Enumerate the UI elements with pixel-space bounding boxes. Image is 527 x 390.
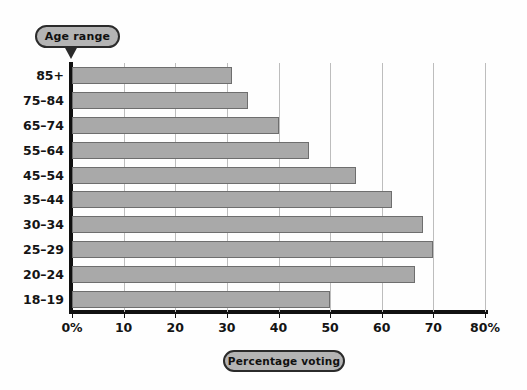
y-axis-tick-label: 30–34 xyxy=(23,217,64,232)
y-axis-tick-label: 55–64 xyxy=(23,143,64,158)
x-axis-tick-mark xyxy=(382,312,383,318)
bar xyxy=(72,167,356,184)
bar-row xyxy=(72,241,485,258)
y-axis-tick-label: 45–54 xyxy=(23,168,64,183)
x-axis-title-pill: Percentage voting xyxy=(223,350,345,372)
bar-row xyxy=(72,92,485,109)
bar-row xyxy=(72,266,485,283)
x-axis-tick-label: 10 xyxy=(115,320,132,335)
x-axis-tick-mark xyxy=(227,312,228,318)
y-axis-tick-labels: 85+75–8465–7455–6445–5435–4430–3425–2920… xyxy=(0,63,64,312)
x-axis-tick-mark xyxy=(124,312,125,318)
y-axis-tick-label: 35–44 xyxy=(23,192,64,207)
bar-row xyxy=(72,167,485,184)
x-axis-tick-mark xyxy=(175,312,176,318)
y-axis-tick-label: 18–19 xyxy=(23,292,64,307)
bar xyxy=(72,241,433,258)
x-gridline xyxy=(485,63,486,312)
bar xyxy=(72,67,232,84)
x-axis-tick-label: 20 xyxy=(167,320,184,335)
plot-area xyxy=(72,63,485,312)
x-axis-tick-label: 0% xyxy=(61,320,82,335)
bar xyxy=(72,291,330,308)
y-axis-title-pill: Age range xyxy=(35,25,120,48)
bar xyxy=(72,216,423,233)
bar-row xyxy=(72,67,485,84)
bar xyxy=(72,266,415,283)
y-axis-title-pointer-triangle xyxy=(64,46,78,59)
bar-row xyxy=(72,191,485,208)
bar xyxy=(72,142,309,159)
x-axis-title-label: Percentage voting xyxy=(228,355,340,367)
x-axis-tick-label: 50 xyxy=(321,320,338,335)
bar-row xyxy=(72,142,485,159)
y-axis-tick-label: 85+ xyxy=(36,68,64,83)
bar-row xyxy=(72,117,485,134)
y-axis-tick-label: 20–24 xyxy=(23,267,64,282)
y-axis-tick-label: 25–29 xyxy=(23,242,64,257)
bar xyxy=(72,191,392,208)
x-axis-tick-label: 40 xyxy=(270,320,287,335)
x-axis-tick-label: 80% xyxy=(470,320,500,335)
x-axis-tick-label: 30 xyxy=(218,320,235,335)
bar xyxy=(72,117,279,134)
bar xyxy=(72,92,248,109)
y-axis-tick-label: 75–84 xyxy=(23,93,64,108)
x-axis-tick-mark xyxy=(485,312,486,318)
y-axis-tick-label: 65–74 xyxy=(23,118,64,133)
x-axis-tick-mark xyxy=(330,312,331,318)
bar-chart-figure: Age range 85+75–8465–7455–6445–5435–4430… xyxy=(0,0,527,390)
x-axis-tick-mark xyxy=(72,312,73,318)
bar-row xyxy=(72,291,485,308)
y-axis-title-label: Age range xyxy=(45,30,111,43)
bar-row xyxy=(72,216,485,233)
x-axis-tick-label: 70 xyxy=(425,320,442,335)
x-axis-tick-label: 60 xyxy=(373,320,390,335)
x-axis-tick-mark xyxy=(433,312,434,318)
x-axis-tick-mark xyxy=(279,312,280,318)
